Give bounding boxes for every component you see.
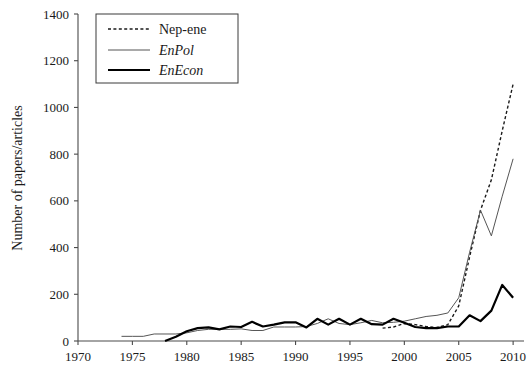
series-line-nep-ene (383, 84, 514, 328)
x-tick-label: 1985 (228, 349, 254, 364)
y-tick-label: 200 (50, 287, 70, 302)
x-axis-ticks: 197019751980198519901995200020052010 (65, 341, 526, 364)
x-tick-label: 1980 (174, 349, 200, 364)
y-tick-label: 1400 (43, 7, 69, 22)
line-chart: 0200400600800100012001400 19701975198019… (0, 0, 532, 380)
legend-label-enecon: EnEcon (158, 63, 203, 78)
x-tick-label: 1970 (65, 349, 91, 364)
chart-figure: 0200400600800100012001400 19701975198019… (0, 0, 532, 380)
series-line-enecon (165, 285, 513, 341)
x-tick-label: 1990 (283, 349, 309, 364)
x-tick-label: 1975 (119, 349, 145, 364)
x-tick-label: 2010 (500, 349, 526, 364)
x-tick-label: 2000 (391, 349, 417, 364)
y-axis-title: Number of papers/articles (10, 105, 25, 250)
legend-label-enpol: EnPol (158, 43, 194, 58)
data-series-group (122, 84, 514, 341)
chart-legend: Nep-eneEnPolEnEcon (96, 14, 238, 83)
legend-label-nep-ene: Nep-ene (159, 22, 206, 37)
y-tick-label: 1000 (43, 100, 69, 115)
series-line-enpol (122, 159, 514, 337)
y-axis-ticks: 0200400600800100012001400 (43, 7, 78, 349)
y-tick-label: 800 (50, 147, 70, 162)
x-tick-label: 1995 (337, 349, 363, 364)
y-tick-label: 0 (63, 334, 70, 349)
y-tick-label: 600 (50, 193, 70, 208)
x-tick-label: 2005 (446, 349, 472, 364)
y-tick-label: 400 (50, 240, 70, 255)
y-tick-label: 1200 (43, 53, 69, 68)
